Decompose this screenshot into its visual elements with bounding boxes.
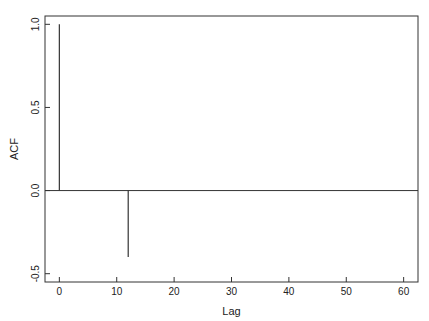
x-tick-label: 0 <box>57 286 63 297</box>
x-tick-label: 20 <box>169 286 181 297</box>
y-tick-label: -0.5 <box>30 265 41 283</box>
x-tick-label: 30 <box>226 286 238 297</box>
acf-chart: 0102030405060-0.50.00.51.0 Lag ACF <box>0 0 429 321</box>
x-tick-label: 60 <box>398 286 410 297</box>
plot-frame <box>45 16 418 282</box>
x-axis-label: Lag <box>222 305 240 317</box>
x-tick-label: 50 <box>341 286 353 297</box>
y-axis-label: ACF <box>8 138 20 160</box>
y-tick-label: 1.0 <box>30 17 41 31</box>
x-tick-label: 10 <box>111 286 123 297</box>
plot-area: 0102030405060-0.50.00.51.0 <box>30 16 418 297</box>
x-tick-label: 40 <box>283 286 295 297</box>
y-tick-label: 0.5 <box>30 100 41 114</box>
y-tick-label: 0.0 <box>30 183 41 197</box>
